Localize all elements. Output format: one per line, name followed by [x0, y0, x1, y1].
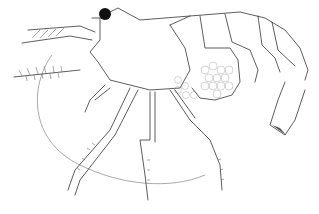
body-outline: [90, 8, 308, 90]
pereopod-3: [170, 90, 222, 190]
shrimp-drawing: [0, 0, 319, 214]
illustration: [0, 0, 319, 214]
antennule-upper: [28, 26, 95, 32]
leg-spines: [77, 143, 224, 180]
antennule-lower: [22, 36, 92, 43]
egg-mass: [175, 62, 234, 99]
maxilliped: [85, 85, 110, 112]
antenna-flagellum: [37, 55, 205, 184]
pereopod-1: [68, 88, 138, 195]
eye-icon: [99, 8, 111, 20]
uropod-setae: [272, 125, 286, 135]
scaphocerite: [14, 70, 80, 77]
